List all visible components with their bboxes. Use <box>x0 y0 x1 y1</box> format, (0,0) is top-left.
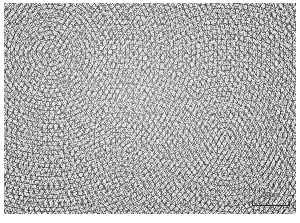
scale-bar-rule <box>252 201 290 206</box>
grain-boundary-network <box>4 3 296 214</box>
illumination-vignette-layer <box>4 3 296 214</box>
scale-bar-tick-right <box>289 201 290 206</box>
scale-bar-label: 50μm <box>252 191 290 199</box>
scale-bar-tick-left <box>252 201 253 206</box>
micrograph-figure: 50μm <box>0 0 300 223</box>
micrograph-image: 50μm <box>4 3 296 214</box>
scale-bar: 50μm <box>252 191 290 206</box>
